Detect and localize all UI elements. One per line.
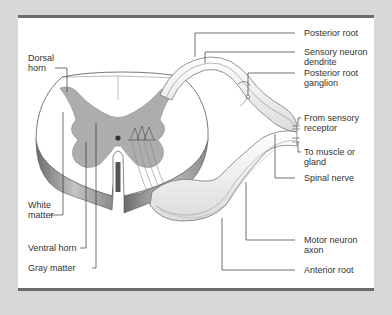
label-anterior-root: Anterior root [304, 265, 354, 275]
central-canal [115, 135, 120, 140]
label-ventral-horn: Ventral horn [28, 243, 77, 253]
label-posterior-root-ganglion: Posterior root ganglion [304, 68, 358, 88]
label-spinal-nerve: Spinal nerve [304, 173, 354, 183]
anterior-median-fissure [116, 162, 121, 192]
label-from-sensory-receptor: From sensory receptor [304, 113, 359, 133]
label-to-muscle-or-gland: To muscle or gland [304, 147, 355, 167]
label-motor-neuron-axon: Motor neuron axon [304, 235, 358, 255]
label-dorsal-horn: Dorsal horn [28, 53, 54, 73]
label-sensory-neuron-dendrite: Sensory neuron dendrite [304, 47, 368, 67]
label-gray-matter: Gray matter [28, 263, 76, 273]
label-white-matter: White matter [28, 200, 54, 220]
label-posterior-root: Posterior root [304, 28, 358, 38]
